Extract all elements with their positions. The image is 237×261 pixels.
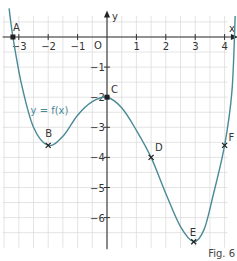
y-tick-label: −1: [90, 62, 105, 73]
point-marker: [10, 35, 15, 40]
x-tick-label: 4: [222, 41, 228, 52]
point-label-e: E: [190, 227, 196, 238]
x-tick-label: −1: [71, 41, 86, 52]
y-tick-label: −4: [90, 152, 105, 163]
origin-label: O: [94, 40, 102, 51]
point-marker: [105, 95, 110, 100]
figure-caption: Fig. 6: [208, 248, 235, 259]
function-label: y = f(x): [31, 105, 69, 116]
x-tick-label: 2: [163, 41, 169, 52]
function-graph: xyO−3−2−11234−1−2−3−4−5−6y = f(x)ABCDEF: [0, 0, 237, 261]
point-label-b: B: [45, 128, 52, 139]
point-label-c: C: [111, 84, 118, 95]
point-label-a: A: [13, 22, 20, 33]
x-tick-label: 1: [133, 41, 139, 52]
point-label-f: F: [229, 132, 235, 143]
x-tick-label: −2: [41, 41, 56, 52]
y-axis-arrow-icon: [104, 10, 110, 17]
x-tick-label: 3: [192, 41, 198, 52]
y-tick-label: −6: [90, 213, 105, 224]
y-tick-label: −5: [90, 183, 105, 194]
point-label-d: D: [155, 142, 163, 153]
y-axis-label: y: [112, 11, 118, 22]
y-tick-label: −3: [90, 122, 105, 133]
